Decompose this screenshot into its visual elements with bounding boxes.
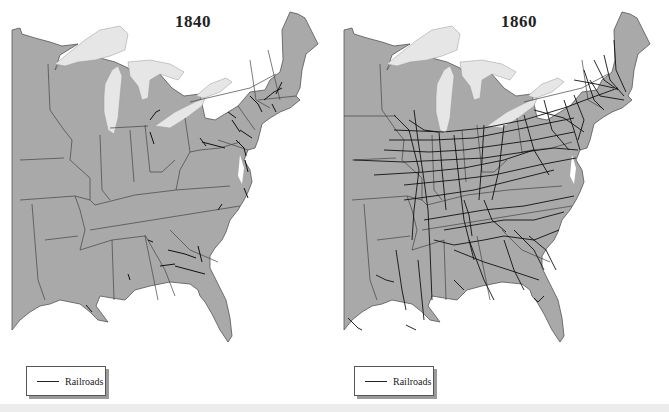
- lake-ontario: [196, 78, 232, 98]
- map-title-1840: 1840: [175, 12, 211, 32]
- lake-ontario: [528, 78, 564, 98]
- legend-label: Railroads: [393, 376, 431, 387]
- map-1840: [0, 0, 334, 412]
- map-title-1860: 1860: [501, 12, 537, 32]
- legend-label: Railroads: [65, 376, 103, 387]
- map-panel-1860: 1860 Railroads: [334, 0, 669, 412]
- legend-1840: Railroads: [26, 366, 106, 396]
- map-1860: [334, 0, 669, 412]
- railroad-line-icon: [365, 381, 387, 382]
- footer-bar: [0, 404, 669, 412]
- railroad-line-icon: [37, 381, 59, 382]
- map-panel-1840: 1840 Railroads: [0, 0, 334, 412]
- legend-1860: Railroads: [354, 366, 434, 396]
